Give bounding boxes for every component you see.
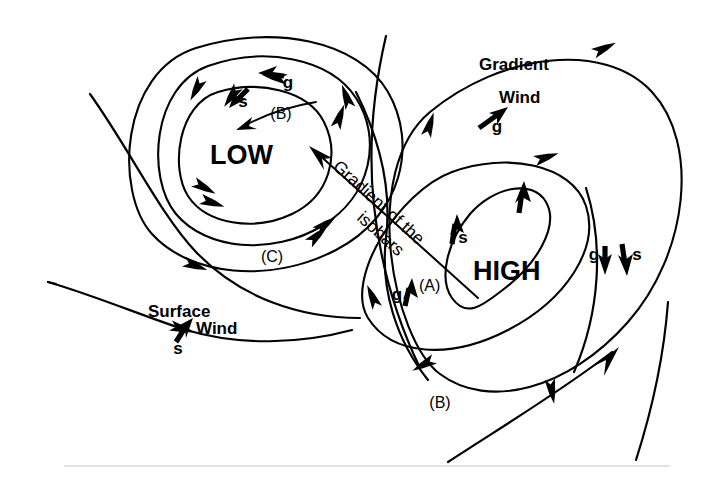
streamline-lower-right: [448, 352, 612, 462]
high-isobar-inner: [446, 188, 551, 308]
diagram-canvas: LOW HIGH (B) (C) (A) (B) g s g s g g s s…: [0, 0, 702, 481]
high-flow-arrow-6: [362, 283, 382, 310]
surface-wind-label-line2: Wind: [196, 319, 237, 338]
high-gradient-wind-g-label: g: [492, 117, 502, 136]
streamline-surface-wind-tail: [48, 282, 56, 284]
low-point-b-label: (B): [270, 105, 291, 122]
gradient-wind-label-line2: Wind: [499, 88, 540, 107]
low-label: LOW: [210, 140, 273, 170]
high-flow-arrow-3: [533, 148, 560, 166]
high-a-g-vector-head: [403, 278, 418, 299]
meteorology-diagram: LOW HIGH (B) (C) (A) (B) g s g s g g s s…: [0, 0, 702, 481]
right-g-label: g: [589, 245, 599, 264]
right-s-label: s: [632, 245, 641, 264]
high-s-label: s: [458, 228, 467, 247]
high-point-b-label: (B): [429, 394, 450, 411]
high-isobar-outer: [389, 60, 681, 392]
high-label: HIGH: [473, 256, 541, 286]
streamline-far-right: [636, 302, 668, 460]
gradient-wind-label-line1: Gradient: [479, 55, 549, 74]
gradient-of-isobars-arrowhead: [309, 146, 332, 170]
low-resultant-thin-head: [236, 117, 257, 130]
low-point-c-label: (C): [261, 248, 283, 265]
surface-wind-s-label: s: [173, 339, 182, 358]
high-a-g-label: g: [392, 285, 402, 304]
streamline-right-flank: [574, 188, 597, 372]
low-s-label: s: [238, 92, 247, 111]
low-flow-arrow-7: [191, 177, 218, 198]
low-flow-arrow-3: [199, 194, 226, 212]
high-flow-arrow-1: [591, 38, 618, 58]
low-g-label: g: [283, 73, 293, 92]
high-point-a-label: (A): [419, 277, 440, 294]
streamline-upper-left: [90, 94, 360, 318]
high-flow-arrow-2: [421, 111, 439, 138]
